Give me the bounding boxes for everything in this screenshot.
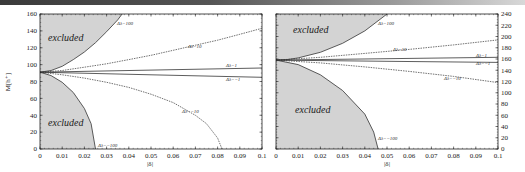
annotation-dl-10: Δλ=10 <box>392 47 407 52</box>
y-tick-label: 200 <box>501 33 512 41</box>
y-tick-label: 120 <box>27 44 38 52</box>
annotation-dl-1: Δλ=1 <box>475 53 487 58</box>
x-tick-label: 0.02 <box>314 152 327 160</box>
excluded-label-upper: excluded <box>293 24 330 35</box>
excluded-region-lower <box>40 72 96 149</box>
x-tick-label: 0.04 <box>123 152 136 160</box>
x-tick-label: 0.09 <box>234 152 247 160</box>
x-tick-label: 0.06 <box>167 152 180 160</box>
annotation-dl-100: Δλ=100 <box>116 21 133 26</box>
excluded-label-lower: excluded <box>48 117 85 128</box>
annotation-dl-m1: Δλ=−1 <box>475 61 490 66</box>
annotation-dl-m10: Δλ=−10 <box>181 109 199 114</box>
y-tick-label: 100 <box>501 89 512 97</box>
y-tick-label: 100 <box>27 61 38 69</box>
y-tick-label: 80 <box>30 78 38 86</box>
y-tick-label: 140 <box>27 27 38 35</box>
x-tick-label: 0.08 <box>447 152 460 160</box>
y-tick-label: 20 <box>501 134 509 142</box>
right-chart: 00.010.020.030.040.050.060.070.080.090.1… <box>274 10 512 168</box>
excluded-region-upper <box>276 14 387 60</box>
y-tick-label: 0 <box>34 145 38 153</box>
x-tick-label: 0 <box>274 152 278 160</box>
y-tick-label: 20 <box>30 128 38 136</box>
x-tick-label: 0.07 <box>189 152 202 160</box>
y-tick-label: 140 <box>501 67 512 75</box>
y-tick-label: 40 <box>501 123 509 131</box>
x-tick-label: 0.02 <box>78 152 91 160</box>
y-tick-label: 160 <box>501 55 512 63</box>
y-tick-label: 160 <box>27 10 38 18</box>
x-tick-label: 0 <box>38 152 42 160</box>
excluded-label-lower: excluded <box>295 104 332 115</box>
x-tick-label: 0.04 <box>359 152 372 160</box>
x-tick-label: 0.01 <box>292 152 305 160</box>
y-tick-label: 0 <box>501 145 505 153</box>
x-axis-title: |δ| <box>384 160 390 168</box>
y-tick-label: 80 <box>501 100 509 108</box>
y-axis-title: M[h⁺] <box>4 73 12 91</box>
annotation-dl-100: Δλ=100 <box>377 21 394 26</box>
charts-figure: 00.010.020.030.040.050.060.070.080.090.1… <box>0 0 525 172</box>
x-tick-label: 0.05 <box>381 152 394 160</box>
annotation-dl-m100: Δλ=−100 <box>377 136 398 141</box>
excluded-label-upper: excluded <box>48 32 85 43</box>
x-axis-title: |δ| <box>147 160 153 168</box>
y-tick-label: 60 <box>501 112 509 120</box>
y-tick-label: 220 <box>501 22 512 30</box>
x-tick-label: 0.09 <box>470 152 483 160</box>
x-tick-label: 0.05 <box>145 152 158 160</box>
x-tick-label: 0.01 <box>56 152 69 160</box>
x-tick-label: 0.03 <box>336 152 349 160</box>
y-tick-label: 120 <box>501 78 512 86</box>
annotation-dl-10: Δλ=10 <box>187 44 202 49</box>
y-tick-label: 40 <box>30 112 38 120</box>
x-tick-label: 0.08 <box>211 152 224 160</box>
x-tick-label: 0.03 <box>100 152 113 160</box>
left-chart: 00.010.020.030.040.050.060.070.080.090.1… <box>4 10 267 168</box>
y-tick-label: 60 <box>30 95 38 103</box>
x-tick-label: 0.07 <box>425 152 438 160</box>
annotation-dl-1: Δλ=1 <box>225 63 237 68</box>
x-tick-label: 0.1 <box>258 152 267 160</box>
y-tick-label: 180 <box>501 44 512 52</box>
annotation-dl-m1: Δλ=−1 <box>225 77 240 82</box>
annotation-dl-m100: Δλ=−100 <box>97 143 118 148</box>
y-tick-label: 240 <box>501 10 512 18</box>
annotation-dl-m10: Δλ=−10 <box>443 76 461 81</box>
x-tick-label: 0.06 <box>403 152 416 160</box>
